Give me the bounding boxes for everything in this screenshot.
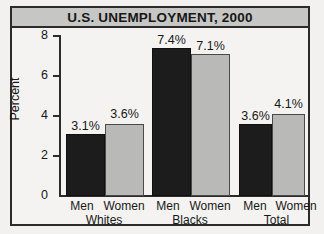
bar-value-whites-women: 3.6% [102, 108, 147, 121]
bar-blacks-men [152, 48, 191, 196]
y-tick-label-2: 2 [28, 149, 48, 162]
x-label-whites-men: Men [62, 199, 102, 213]
x-label-blacks-men: Men [148, 199, 188, 213]
plot-area: 3.1% 3.6% 7.4% 7.1% 3.6% 4.1% [60, 36, 310, 196]
y-axis-title: Percent [8, 64, 22, 134]
y-tick-mark-4 [53, 115, 60, 117]
bar-blacks-women [191, 54, 230, 196]
chart-figure: U.S. UNEMPLOYMENT, 2000 8 6 4 2 0 Percen… [0, 0, 324, 234]
x-label-whites-women: Women [102, 199, 146, 213]
y-tick-mark-2 [53, 155, 60, 157]
page-title: U.S. UNEMPLOYMENT, 2000 [67, 10, 252, 25]
y-tick-label-8: 8 [28, 29, 48, 42]
x-group-label-blacks: Blacks [148, 213, 232, 227]
x-label-blacks-women: Women [188, 199, 232, 213]
bar-value-total-men: 3.6% [233, 110, 278, 123]
chart-title-bar: U.S. UNEMPLOYMENT, 2000 [10, 6, 310, 28]
bar-value-whites-men: 3.1% [63, 120, 108, 133]
x-group-label-total: Total [235, 213, 318, 227]
bar-value-total-women: 4.1% [266, 98, 311, 111]
bar-total-women [272, 114, 305, 196]
y-tick-label-6: 6 [28, 69, 48, 82]
y-tick-mark-8 [53, 35, 60, 37]
x-label-total-women: Women [274, 199, 318, 213]
bar-whites-women [105, 124, 144, 196]
bar-total-men [239, 124, 272, 196]
x-group-label-whites: Whites [62, 213, 146, 227]
y-tick-label-4: 4 [28, 109, 48, 122]
x-label-total-men: Men [235, 199, 275, 213]
bar-value-blacks-women: 7.1% [188, 40, 233, 53]
y-tick-label-0: 0 [28, 189, 48, 202]
bar-whites-men [66, 134, 105, 196]
y-tick-mark-6 [53, 75, 60, 77]
